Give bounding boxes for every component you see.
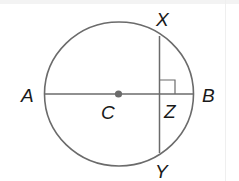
label-z: Z xyxy=(163,101,177,122)
label-x: X xyxy=(155,9,170,30)
label-a: A xyxy=(20,85,34,106)
label-y: Y xyxy=(155,161,169,181)
label-c: C xyxy=(101,102,115,123)
circle-diagram: A B C X Y Z xyxy=(0,0,239,181)
label-b: B xyxy=(202,85,215,106)
right-angle-marker xyxy=(160,80,176,94)
center-point xyxy=(115,90,122,97)
